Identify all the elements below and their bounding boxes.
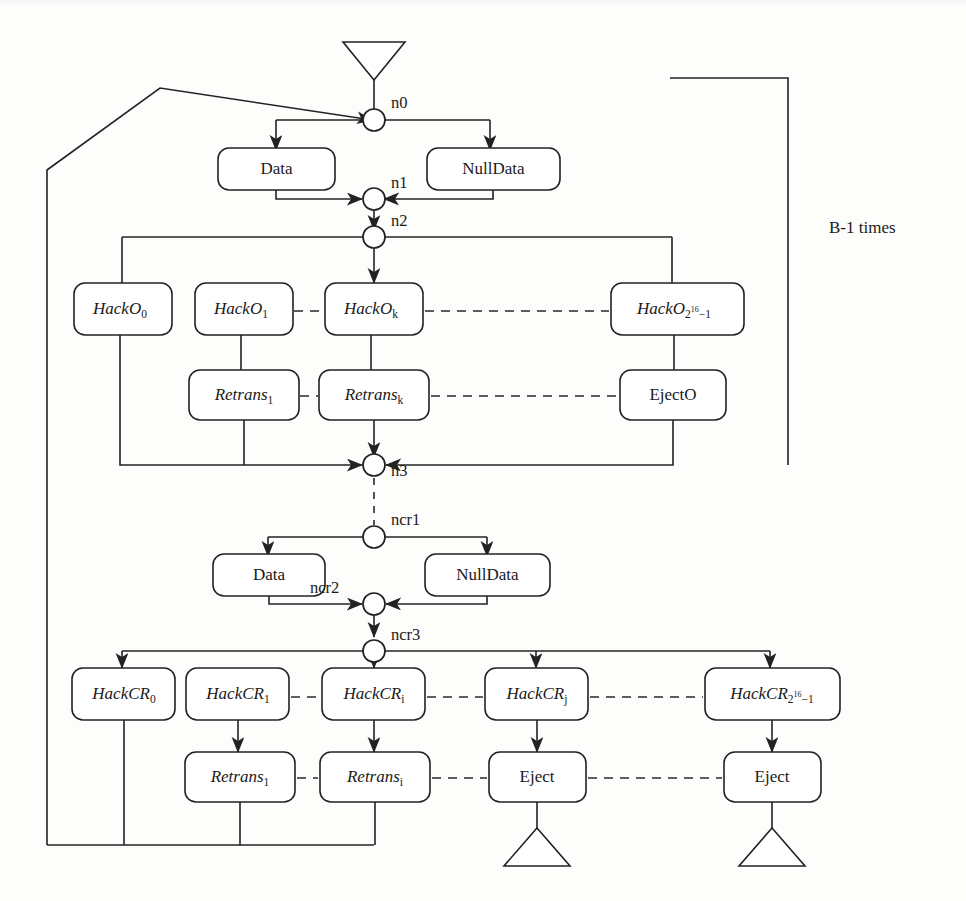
box-hacko-k-label: HackOk bbox=[343, 299, 398, 320]
box-eject-max-label: Eject bbox=[755, 767, 790, 786]
flow-graph-svg: Data NullData HackO0 bbox=[0, 0, 966, 901]
box-hackcr-0-label: HackCR0 bbox=[91, 684, 156, 705]
label-ncr1: ncr1 bbox=[391, 510, 420, 529]
node-n1[interactable] bbox=[363, 188, 385, 210]
box-retrans-i-cr-label: Retransi bbox=[346, 767, 403, 788]
loop-count-label: B-1 times bbox=[829, 218, 896, 237]
box-nulldata-o-label: NullData bbox=[462, 159, 525, 178]
box-retrans-1-o-label: Retrans1 bbox=[214, 385, 274, 406]
label-n3: n3 bbox=[391, 461, 408, 480]
label-ncr3: ncr3 bbox=[391, 625, 420, 644]
box-data-o-label: Data bbox=[260, 159, 293, 178]
box-hackcr-i-label: HackCRi bbox=[343, 684, 405, 705]
box-ejecto-label: EjectO bbox=[649, 385, 696, 404]
box-data-o[interactable]: Data bbox=[218, 148, 335, 190]
box-hacko-0-label: HackO0 bbox=[92, 299, 147, 320]
sink-triangle-max bbox=[739, 802, 805, 866]
box-hackcr-max[interactable]: HackCR216−1 bbox=[705, 668, 840, 720]
box-hackcr-i[interactable]: HackCRi bbox=[322, 668, 425, 720]
box-retrans-i-cr[interactable]: Retransi bbox=[320, 752, 430, 802]
box-nulldata-cr[interactable]: NullData bbox=[425, 554, 550, 596]
node-ncr1[interactable] bbox=[363, 526, 385, 548]
box-hacko-max[interactable]: HackO216−1 bbox=[611, 283, 744, 335]
n2-distribution-bus bbox=[122, 237, 672, 283]
box-hackcr-1-label: HackCR1 bbox=[205, 684, 270, 705]
box-nulldata-cr-label: NullData bbox=[456, 565, 519, 584]
node-n0[interactable] bbox=[363, 109, 385, 131]
diagram-canvas: Data NullData HackO0 bbox=[0, 0, 966, 901]
sink-triangle-j bbox=[504, 802, 570, 866]
box-hacko-0[interactable]: HackO0 bbox=[74, 283, 172, 335]
global-feedback-path bbox=[47, 88, 372, 845]
box-retrans-1-o[interactable]: Retrans1 bbox=[189, 370, 299, 420]
box-retrans-k-o-label: Retransk bbox=[344, 385, 404, 406]
node-ncr3[interactable] bbox=[363, 640, 385, 662]
box-hackcr-1[interactable]: HackCR1 bbox=[186, 668, 289, 720]
box-hackcr-0[interactable]: HackCR0 bbox=[72, 668, 175, 720]
box-hacko-k[interactable]: HackOk bbox=[325, 283, 423, 335]
box-hackcr-j[interactable]: HackCRj bbox=[485, 668, 588, 720]
box-eject-j[interactable]: Eject bbox=[489, 752, 586, 802]
node-n2[interactable] bbox=[363, 226, 385, 248]
box-hackcr-j-label: HackCRj bbox=[506, 684, 568, 706]
box-data-cr-label: Data bbox=[253, 565, 286, 584]
label-n2: n2 bbox=[391, 211, 408, 230]
ncr3-distribution-bus bbox=[122, 651, 770, 668]
node-n3[interactable] bbox=[363, 454, 385, 476]
box-hacko-1-label: HackO1 bbox=[213, 299, 268, 320]
label-n1: n1 bbox=[391, 173, 408, 192]
box-data-cr[interactable]: Data bbox=[213, 554, 325, 596]
box-ejecto[interactable]: EjectO bbox=[620, 370, 726, 420]
label-n0: n0 bbox=[391, 93, 408, 112]
box-eject-max[interactable]: Eject bbox=[724, 752, 821, 802]
box-retrans-1-cr[interactable]: Retrans1 bbox=[185, 752, 295, 802]
box-hacko-1[interactable]: HackO1 bbox=[195, 283, 293, 335]
box-eject-j-label: Eject bbox=[520, 767, 555, 786]
box-retrans-1-cr-label: Retrans1 bbox=[210, 767, 270, 788]
box-nulldata-o[interactable]: NullData bbox=[427, 148, 560, 190]
node-ncr2[interactable] bbox=[363, 593, 385, 615]
label-ncr2: ncr2 bbox=[310, 578, 339, 597]
box-retrans-k-o[interactable]: Retransk bbox=[319, 370, 429, 420]
